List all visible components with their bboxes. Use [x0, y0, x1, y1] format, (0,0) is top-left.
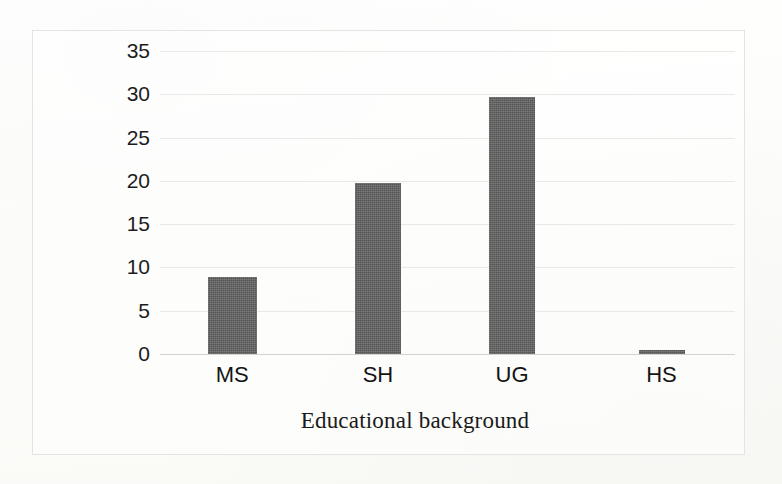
- bar-HS: [639, 350, 685, 354]
- x-tick-label-HS: HS: [646, 362, 677, 388]
- x-tick-label-MS: MS: [216, 362, 249, 388]
- bar-UG: [489, 97, 535, 354]
- y-tick-label-0: 0: [104, 342, 150, 366]
- y-tick-label-25: 25: [104, 126, 150, 150]
- bar-SH: [355, 183, 401, 354]
- gridline-30: [160, 94, 735, 95]
- gridline-20: [160, 181, 735, 182]
- gridline-35: [160, 51, 735, 52]
- bar-chart-figure: 05101520253035 Number of participants Ed…: [0, 0, 782, 484]
- x-tick-label-UG: UG: [496, 362, 529, 388]
- bar-MS: [208, 277, 257, 354]
- gridline-15: [160, 224, 735, 225]
- y-tick-label-35: 35: [104, 39, 150, 63]
- y-tick-label-20: 20: [104, 169, 150, 193]
- x-tick-label-SH: SH: [363, 362, 394, 388]
- y-axis-tick-labels: 05101520253035: [94, 51, 150, 354]
- y-tick-label-5: 5: [104, 299, 150, 323]
- y-tick-label-15: 15: [104, 212, 150, 236]
- gridline-25: [160, 138, 735, 139]
- plot-area: [160, 51, 735, 354]
- y-tick-label-30: 30: [104, 82, 150, 106]
- gridline-10: [160, 267, 735, 268]
- x-axis-title-text: Educational background: [301, 408, 530, 434]
- y-tick-label-10: 10: [104, 255, 150, 279]
- gridline-0: [160, 354, 735, 355]
- x-axis-title: Educational background: [0, 408, 782, 434]
